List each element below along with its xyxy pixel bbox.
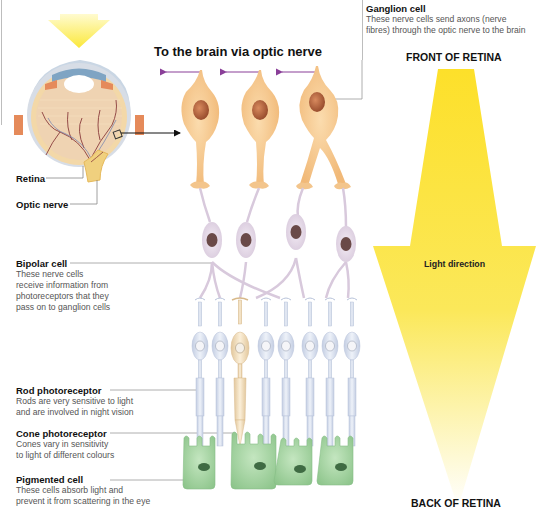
ganglion-cells <box>181 66 351 189</box>
back-of-retina-label: BACK OF RETINA <box>411 497 501 509</box>
bipolar-cell-desc-line: These nerve cells <box>16 269 110 280</box>
pigmented-cell-desc-line: prevent it from scattering in the eye <box>16 496 150 507</box>
rod-terminals <box>195 298 357 300</box>
light-direction-label: Light direction <box>424 259 485 269</box>
rod-nuclei <box>196 341 357 351</box>
pigmented-cell-desc-line: These cells absorb light and <box>16 485 150 496</box>
pigmented-cell-title: Pigmented cell <box>16 474 150 485</box>
bipolar-cells <box>200 188 356 298</box>
bipolar-cell-desc-line: photoreceptors that they <box>16 291 110 302</box>
ganglion-cell-title: Ganglion cell <box>366 3 526 14</box>
retina-label: Retina <box>16 173 45 184</box>
bipolar-cell-title: Bipolar cell <box>16 258 110 269</box>
incoming-light-arrow <box>48 14 110 48</box>
eye-cross-section <box>14 62 180 182</box>
rod-photoreceptor-desc-line: and are involved in night vision <box>16 407 134 418</box>
cone-photoreceptor-label: Cone photoreceptor Cones vary in sensiti… <box>16 428 114 461</box>
cone-photoreceptor-desc-line: Cones vary in sensitivity <box>16 439 114 450</box>
ganglion-cell-desc-line: fibres) through the optic nerve to the b… <box>366 25 526 36</box>
rod-photoreceptor-title: Rod photoreceptor <box>16 385 134 396</box>
ganglion-cell-label: Ganglion cell These nerve cells send axo… <box>366 3 526 36</box>
bipolar-cell-desc-line: receive information from <box>16 280 110 291</box>
ganglion-cell-desc-line: These nerve cells send axons (nerve <box>366 14 526 25</box>
cone-photoreceptor-desc-line: to light of different colours <box>16 450 114 461</box>
bipolar-cell-label: Bipolar cell These nerve cells receive i… <box>16 258 110 313</box>
rod-photoreceptor-label: Rod photoreceptor Rods are very sensitiv… <box>16 385 134 418</box>
cone-photoreceptor <box>231 298 249 446</box>
bipolar-cell-desc-line: pass on to ganglion cells <box>16 302 110 313</box>
light-direction-arrow <box>373 69 536 508</box>
optic-nerve-heading: To the brain via optic nerve <box>154 44 322 59</box>
front-of-retina-label: FRONT OF RETINA <box>406 51 502 63</box>
optic-nerve-label: Optic nerve <box>16 199 68 210</box>
pigmented-cell-label: Pigmented cell These cells absorb light … <box>16 474 150 507</box>
cone-photoreceptor-title: Cone photoreceptor <box>16 428 114 439</box>
rod-photoreceptor-desc-line: Rods are very sensitive to light <box>16 396 134 407</box>
rod-cells <box>192 302 360 446</box>
